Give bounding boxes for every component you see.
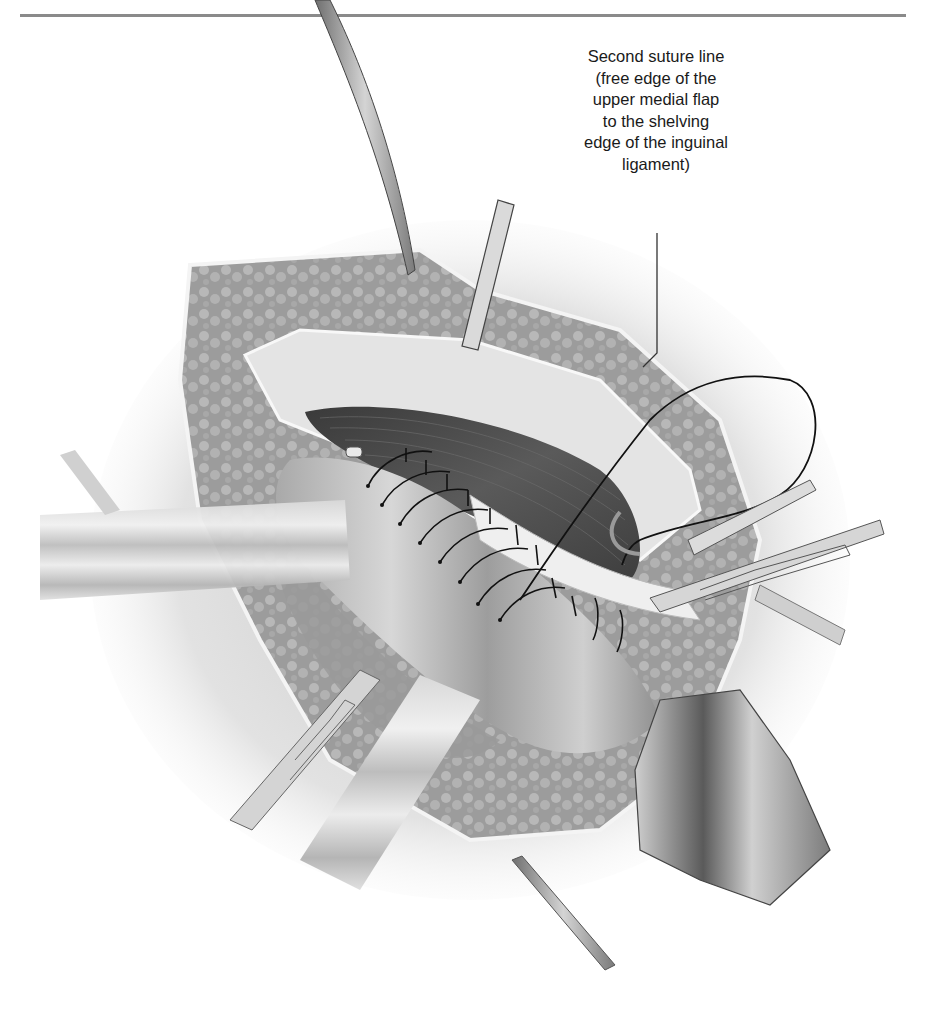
surgical-illustration: [0, 0, 925, 1012]
tie-knot: [346, 447, 362, 457]
